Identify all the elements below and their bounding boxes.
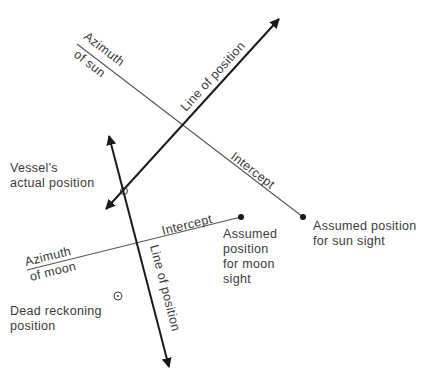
assumed-sun-label-2: for sun sight xyxy=(313,234,385,248)
moon-intercept-label: Intercept xyxy=(160,212,213,238)
assumed-moon-label-2: position xyxy=(223,242,269,256)
assumed-moon-label-3: for moon xyxy=(223,257,275,271)
dr-label-2: position xyxy=(10,319,56,333)
sun-lop-label: Line of position xyxy=(178,39,248,114)
assumed-moon-label-4: sight xyxy=(223,272,251,286)
moon-lop-label: Line of position xyxy=(147,243,183,333)
vessel-label-1: Vessel's xyxy=(10,161,58,175)
assumed-moon-position-dot xyxy=(238,214,244,220)
sun-intercept-label: Intercept xyxy=(228,149,277,191)
assumed-sun-label-1: Assumed position xyxy=(313,219,416,233)
navigation-diagram: Azimuth of sun Line of position Intercep… xyxy=(0,0,445,387)
sun-line-of-position xyxy=(106,19,279,209)
assumed-sun-position-dot xyxy=(300,214,306,220)
dr-label-1: Dead reckoning xyxy=(10,304,102,318)
vessel-label-2: actual position xyxy=(10,176,94,190)
assumed-moon-label-1: Assumed xyxy=(223,227,277,241)
dead-reckoning-marker xyxy=(114,292,122,300)
